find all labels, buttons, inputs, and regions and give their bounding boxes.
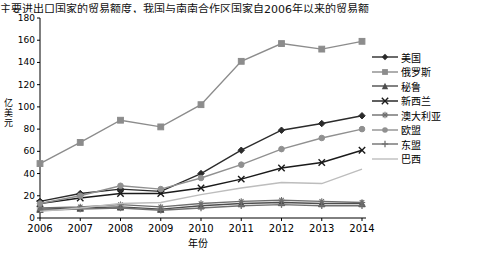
legend-item-2: 秘鲁 <box>372 79 476 94</box>
svg-text:0: 0 <box>29 213 35 223</box>
svg-text:20: 20 <box>24 191 36 201</box>
svg-text:120: 120 <box>18 80 35 90</box>
svg-text:160: 160 <box>18 35 35 45</box>
svg-text:2006: 2006 <box>27 223 52 234</box>
legend-marker-icon <box>372 80 398 92</box>
legend-label: 俄罗斯 <box>398 64 431 79</box>
svg-text:2012: 2012 <box>269 223 294 234</box>
svg-text:2011: 2011 <box>229 223 254 234</box>
svg-text:80: 80 <box>24 124 36 134</box>
svg-text:2013: 2013 <box>309 223 334 234</box>
legend-label: 澳大利亚 <box>398 108 441 123</box>
svg-text:40: 40 <box>24 169 36 179</box>
legend-item-3: 新西兰 <box>372 94 476 109</box>
legend-item-4: 澳大利亚 <box>372 108 476 123</box>
svg-text:2007: 2007 <box>68 223 93 234</box>
svg-text:180: 180 <box>18 13 35 23</box>
line-chart: 0204060801001201401601802006200720082009… <box>0 10 482 250</box>
svg-text:2010: 2010 <box>188 223 213 234</box>
legend-marker-icon <box>372 124 398 136</box>
legend-label: 巴西 <box>398 151 421 166</box>
svg-text:2014: 2014 <box>349 223 374 234</box>
svg-text:2008: 2008 <box>108 223 133 234</box>
y-axis-label: 亿美元 <box>3 98 14 128</box>
legend-item-6: 东盟 <box>372 137 476 152</box>
chart-page: 主要进出口国家的贸易额度，我国与南南合作区国家自2006年以来的贸易额 0204… <box>0 0 482 259</box>
legend-label: 东盟 <box>398 137 421 152</box>
legend-marker-icon <box>372 138 398 150</box>
x-axis-label: 年份 <box>188 235 208 250</box>
legend-label: 秘鲁 <box>398 79 421 94</box>
y-axis-label-text: 亿美元 <box>3 98 14 128</box>
legend-item-5: 欧盟 <box>372 123 476 138</box>
legend-item-0: 美国 <box>372 50 476 65</box>
svg-text:100: 100 <box>18 102 35 112</box>
svg-text:140: 140 <box>18 57 35 67</box>
legend: 美国俄罗斯秘鲁新西兰澳大利亚欧盟东盟巴西 <box>372 50 476 166</box>
legend-label: 欧盟 <box>398 122 421 137</box>
svg-text:60: 60 <box>24 146 36 156</box>
legend-label: 新西兰 <box>398 93 431 108</box>
legend-marker-icon <box>372 109 398 121</box>
legend-marker-icon <box>372 95 398 107</box>
legend-item-1: 俄罗斯 <box>372 65 476 80</box>
legend-marker-icon <box>372 153 398 165</box>
legend-label: 美国 <box>398 50 421 65</box>
svg-text:2009: 2009 <box>148 223 173 234</box>
legend-marker-icon <box>372 51 398 63</box>
legend-item-7: 巴西 <box>372 152 476 167</box>
legend-marker-icon <box>372 66 398 78</box>
